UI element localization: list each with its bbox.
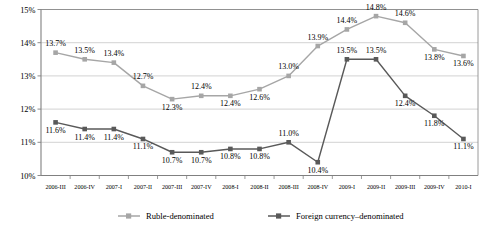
data-point-label: 13.7% [45,39,66,48]
data-point-label: 14.8% [366,3,387,12]
data-point-label: 12.4% [191,82,212,91]
data-point-marker[interactable] [82,127,87,132]
data-point-label: 11.4% [75,133,96,142]
x-axis-tick-label: 2008-IV [307,184,328,190]
data-point-marker[interactable] [374,57,379,62]
data-point-label: 11.6% [45,126,66,135]
legend-marker-swatch-1 [276,213,281,218]
x-axis-tick-label: 2007-II [134,184,152,190]
data-point-marker[interactable] [112,60,117,65]
data-point-label: 10.4% [307,166,328,175]
y-axis-tick-label: 12% [20,105,35,114]
data-point-label: 10.8% [249,152,270,161]
data-point-marker[interactable] [257,87,262,92]
data-point-marker[interactable] [403,20,408,25]
y-axis-tick-label: 13% [20,72,35,81]
data-point-marker[interactable] [170,150,175,155]
data-point-marker[interactable] [170,97,175,102]
data-point-label: 13.8% [424,53,445,62]
data-point-marker[interactable] [286,140,291,145]
y-axis-tick-label: 14% [20,39,35,48]
data-point-label: 10.7% [191,156,212,165]
data-point-marker[interactable] [432,47,437,52]
data-point-marker[interactable] [345,57,350,62]
data-point-label: 11.8% [424,119,445,128]
data-point-marker[interactable] [53,120,58,125]
data-point-label: 12.6% [249,93,270,102]
data-point-label: 13.0% [278,62,299,71]
data-point-label: 14.4% [337,16,358,25]
data-point-marker[interactable] [228,94,233,99]
data-point-label: 13.5% [337,46,358,55]
data-point-marker[interactable] [374,14,379,19]
data-point-marker[interactable] [141,137,146,142]
x-axis-tick-label: 2009-I [339,184,355,190]
y-axis-tick-label: 15% [20,6,35,15]
data-point-label: 12.4% [220,99,241,108]
data-point-marker[interactable] [461,54,466,59]
data-point-marker[interactable] [315,160,320,165]
chart-container: 10%11%12%13%14%15%2006-III2006-IV2007-I2… [0,0,485,234]
data-point-marker[interactable] [432,113,437,118]
data-point-label: 12.7% [133,72,154,81]
data-point-label: 11.1% [133,142,154,151]
data-point-label: 11.1% [453,142,474,151]
x-axis-tick-label: 2006-III [45,184,65,190]
x-axis-tick-label: 2008-II [250,184,268,190]
data-point-marker[interactable] [228,147,233,152]
data-point-marker[interactable] [141,84,146,89]
data-point-label: 11.0% [278,129,299,138]
data-point-marker[interactable] [257,147,262,152]
data-point-marker[interactable] [315,44,320,49]
y-axis-tick-label: 11% [20,138,35,147]
x-axis-tick-label: 2007-III [162,184,182,190]
data-point-label: 11.4% [104,133,125,142]
data-point-label: 13.4% [103,49,124,58]
x-axis-tick-label: 2008-III [278,184,298,190]
x-axis-tick-label: 2007-I [106,184,122,190]
data-point-label: 14.6% [395,9,416,18]
data-point-label: 10.8% [220,152,241,161]
data-point-label: 12.4% [395,99,416,108]
x-axis-tick-label: 2009-II [367,184,385,190]
data-point-marker[interactable] [199,150,204,155]
data-point-label: 13.5% [366,46,387,55]
data-point-marker[interactable] [345,27,350,32]
y-axis-tick-label: 10% [20,172,35,181]
x-axis-tick-label: 2008-I [222,184,238,190]
x-axis-tick-label: 2009-IV [424,184,445,190]
legend-marker-swatch-0 [126,213,131,218]
data-point-label: 13.9% [307,33,328,42]
x-axis-tick-label: 2009-III [395,184,415,190]
data-point-marker[interactable] [461,137,466,142]
data-point-marker[interactable] [199,94,204,99]
data-point-marker[interactable] [53,50,58,55]
data-point-label: 10.7% [162,156,183,165]
legend-label-1[interactable]: Foreign currency–denominated [296,211,404,221]
data-point-label: 13.5% [74,46,95,55]
data-point-marker[interactable] [112,127,117,132]
x-axis-tick-label: 2006-IV [74,184,95,190]
legend-label-0[interactable]: Ruble-denominated [146,211,214,221]
data-point-marker[interactable] [82,57,87,62]
data-point-label: 13.6% [453,59,474,68]
x-axis-tick-label: 2010-I [455,184,471,190]
line-chart: 10%11%12%13%14%15%2006-III2006-IV2007-I2… [0,0,485,234]
x-axis-tick-label: 2007-IV [191,184,212,190]
data-point-marker[interactable] [286,74,291,79]
data-point-label: 12.3% [162,103,183,112]
data-point-marker[interactable] [403,94,408,99]
